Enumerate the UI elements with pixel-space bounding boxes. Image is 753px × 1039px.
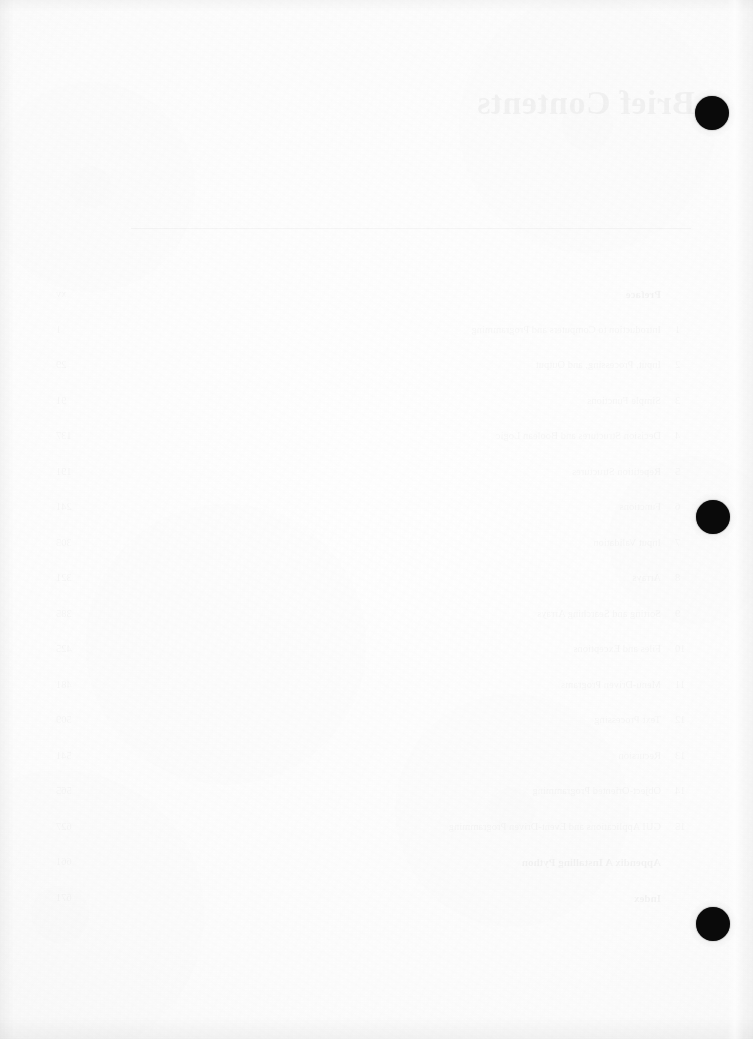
middle-punch-dot [696,500,730,534]
scanned-page: Brief Contents Prefacexv1Introduction to… [0,0,753,1039]
paper-grain-texture [0,0,753,1039]
bottom-punch-dot [696,907,730,941]
top-punch-dot [695,96,729,130]
